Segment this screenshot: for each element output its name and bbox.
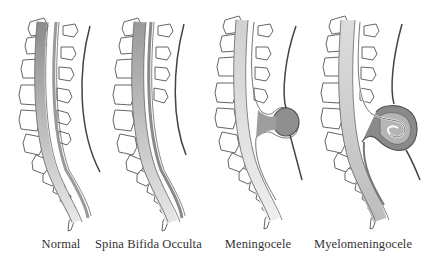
meningocele-sac — [273, 108, 299, 136]
myelomeningocele-illustration — [316, 0, 426, 235]
spina-bifida-occulta-illustration — [106, 0, 216, 235]
meningocele-illustration — [210, 0, 320, 235]
normal-spine-illustration — [0, 0, 110, 235]
panel-label-meningocele: Meningocele — [216, 237, 300, 252]
panel-label-normal: Normal — [33, 237, 89, 252]
panel-label-spina-bifida-occulta: Spina Bifida Occulta — [95, 237, 201, 252]
spina-bifida-diagram: Normal Spina Bifida Occulta Meningocele … — [0, 0, 426, 267]
panel-label-myelomeningocele: Myelomeningocele — [308, 237, 418, 252]
